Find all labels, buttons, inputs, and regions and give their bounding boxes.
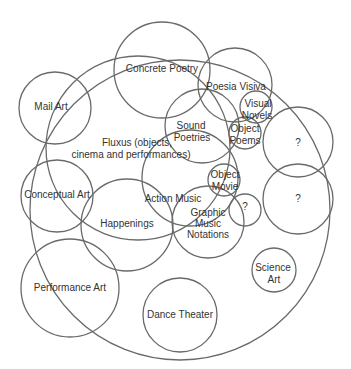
art-movements-diagram: Concrete PoetryMail ArtPoesia VisivaVisu… [0,0,351,369]
circle-label: Movie [212,181,239,192]
circle-label: Object [231,123,260,134]
circle-label: ? [242,201,248,212]
circle-label: Fluxus (objects, [102,137,172,148]
circle-label: ? [295,193,301,204]
circle-label: Art [268,274,281,285]
circle-label: Happenings [100,218,153,229]
circle-label: Dance Theater [147,309,214,320]
circle-label: Visual [244,98,271,109]
circle-label: Performance Art [34,282,106,293]
circle-label: Action Music [145,193,202,204]
circle-label: ? [295,137,301,148]
circle-label: Conceptual Art [24,189,90,200]
circle-label: Poems [229,135,260,146]
label-layer: Concrete PoetryMail ArtPoesia VisivaVisu… [24,63,301,320]
circle-label: Novels [242,110,273,121]
circle-label: Graphic [190,207,225,218]
circle-label: Sound [177,120,206,131]
circle-label: Poesia Visiva [206,81,266,92]
circle-label: Notations [187,229,229,240]
circle-label: Poetries [174,132,211,143]
circle-label: Music [195,218,221,229]
circle-label: Science [255,262,291,273]
circle-label: Mail Art [34,101,68,112]
circle-label: cinema and performances) [72,149,191,160]
circle-label: Concrete Poetry [126,63,198,74]
circle-label: Object [211,169,240,180]
